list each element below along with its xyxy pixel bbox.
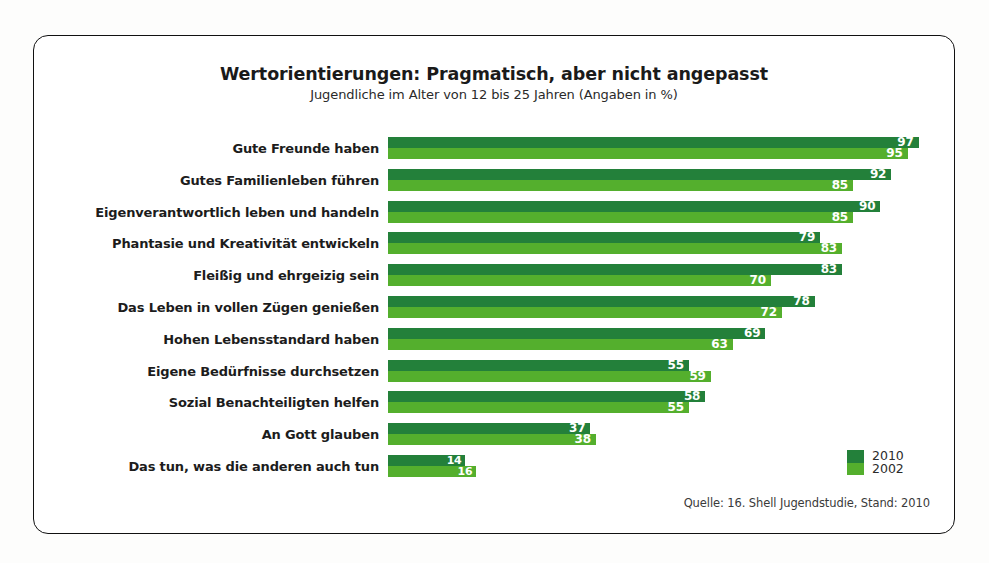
page-background: Wertorientierungen: Pragmatisch, aber ni… xyxy=(0,0,989,563)
bar-value-label: 38 xyxy=(575,434,591,445)
chart-row: Hohen Lebensstandard haben6963 xyxy=(34,328,956,351)
bar-2002: 55 xyxy=(388,402,689,413)
chart-row: Gute Freunde haben9795 xyxy=(34,137,956,160)
bar-2010: 55 xyxy=(388,360,689,371)
bar-value-label: 79 xyxy=(799,232,815,243)
bar-2002: 95 xyxy=(388,148,908,159)
bar-chart-plot: Gute Freunde haben9795Gutes Familienlebe… xyxy=(34,36,956,535)
bar-value-label: 92 xyxy=(870,169,886,180)
chart-row: Gutes Familienleben führen9285 xyxy=(34,169,956,192)
category-label: Gute Freunde haben xyxy=(232,137,379,160)
category-label: Das tun, was die anderen auch tun xyxy=(128,455,379,478)
bar-value-label: 16 xyxy=(458,466,473,477)
chart-row: Eigene Bedürfnisse durchsetzen5559 xyxy=(34,360,956,383)
bar-value-label: 83 xyxy=(821,243,837,254)
bar-2010: 90 xyxy=(388,201,880,212)
bar-2010: 83 xyxy=(388,264,842,275)
bar-value-label: 70 xyxy=(750,275,766,286)
bar-2002: 85 xyxy=(388,180,853,191)
chart-row: Das Leben in vollen Zügen genießen7872 xyxy=(34,296,956,319)
chart-row: Eigenverantwortlich leben und handeln908… xyxy=(34,201,956,224)
bar-value-label: 58 xyxy=(684,391,700,402)
chart-legend: 2010 2002 xyxy=(847,449,904,475)
bar-2010: 78 xyxy=(388,296,815,307)
legend-labels: 2010 2002 xyxy=(872,449,904,475)
bar-value-label: 85 xyxy=(832,180,848,191)
bar-2002: 85 xyxy=(388,212,853,223)
category-label: Gutes Familienleben führen xyxy=(180,169,379,192)
chart-row: Fleißig und ehrgeizig sein8370 xyxy=(34,264,956,287)
legend-label-2002: 2002 xyxy=(872,462,904,475)
bar-2010: 69 xyxy=(388,328,765,339)
chart-row: An Gott glauben3738 xyxy=(34,423,956,446)
chart-inner: Wertorientierungen: Pragmatisch, aber ni… xyxy=(34,36,954,533)
category-label: Phantasie und Kreativität entwickeln xyxy=(112,232,379,255)
bar-2002: 63 xyxy=(388,339,733,350)
chart-frame: Wertorientierungen: Pragmatisch, aber ni… xyxy=(33,35,955,534)
bar-value-label: 78 xyxy=(793,296,809,307)
bar-2002: 38 xyxy=(388,434,596,445)
category-label: An Gott glauben xyxy=(262,423,379,446)
bar-2002: 59 xyxy=(388,371,711,382)
bar-value-label: 59 xyxy=(689,371,705,382)
bar-2010: 58 xyxy=(388,391,705,402)
category-label: Hohen Lebensstandard haben xyxy=(163,328,379,351)
chart-row: Das tun, was die anderen auch tun1416 xyxy=(34,455,956,478)
bar-value-label: 95 xyxy=(886,148,902,159)
bar-value-label: 85 xyxy=(832,212,848,223)
bar-2010: 92 xyxy=(388,169,891,180)
bar-2010: 79 xyxy=(388,232,820,243)
bar-2002: 72 xyxy=(388,307,782,318)
bar-value-label: 55 xyxy=(668,402,684,413)
bar-value-label: 55 xyxy=(668,360,684,371)
legend-swatch-2002 xyxy=(847,463,864,476)
bar-2010: 14 xyxy=(388,455,465,466)
bar-2002: 70 xyxy=(388,275,771,286)
category-label: Eigenverantwortlich leben und handeln xyxy=(95,201,379,224)
bar-2002: 16 xyxy=(388,466,476,477)
bar-value-label: 69 xyxy=(744,328,760,339)
source-note: Quelle: 16. Shell Jugendstudie, Stand: 2… xyxy=(684,496,930,510)
category-label: Eigene Bedürfnisse durchsetzen xyxy=(147,360,379,383)
bar-2002: 83 xyxy=(388,243,842,254)
bar-value-label: 83 xyxy=(821,264,837,275)
bar-value-label: 63 xyxy=(711,339,727,350)
bar-value-label: 72 xyxy=(761,307,777,318)
bar-2010: 37 xyxy=(388,423,590,434)
chart-row: Phantasie und Kreativität entwickeln7983 xyxy=(34,232,956,255)
category-label: Das Leben in vollen Zügen genießen xyxy=(117,296,379,319)
bar-2010: 97 xyxy=(388,137,919,148)
bar-value-label: 90 xyxy=(859,201,875,212)
legend-swatch xyxy=(847,450,864,475)
category-label: Fleißig und ehrgeizig sein xyxy=(193,264,379,287)
chart-row: Sozial Benachteiligten helfen5855 xyxy=(34,391,956,414)
category-label: Sozial Benachteiligten helfen xyxy=(169,391,379,414)
legend-swatch-2010 xyxy=(847,450,864,463)
